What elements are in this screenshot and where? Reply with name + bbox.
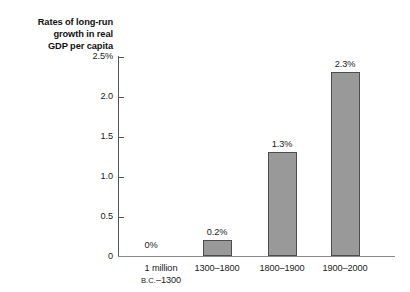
bar-3: [268, 152, 297, 256]
x-axis-label-3-line-1: 1800–1900: [259, 263, 304, 273]
y-tick-2.5: [119, 57, 124, 58]
x-axis-label-2-line-1: 1300–1800: [194, 263, 239, 273]
y-axis-label-0.5: 0.5: [23, 212, 113, 221]
bar-value-label-1: 0%: [116, 241, 186, 250]
y-tick-0.5: [119, 217, 124, 218]
bar-value-label-2: 0.2%: [182, 228, 252, 237]
y-axis-label-2.5: 2.5%: [23, 52, 113, 61]
bar-2: [203, 240, 232, 256]
chart-title-line-2: growth in real: [53, 29, 113, 39]
chart-title-line-1: Rates of long-run: [38, 17, 113, 27]
y-axis-label-0: 0: [23, 252, 113, 261]
x-axis-line: [118, 256, 395, 257]
bc-small-caps: B.C.: [141, 276, 156, 285]
y-tick-1.5: [119, 137, 124, 138]
y-tick-1.0: [119, 177, 124, 178]
x-axis-label-4-line-1: 1900–2000: [322, 263, 367, 273]
x-axis-label-1-line-2: B.C.–1300: [116, 275, 206, 287]
chart-title: Rates of long-run growth in real GDP per…: [8, 16, 113, 52]
x-axis-label-4: 1900–2000: [300, 263, 390, 275]
bar-value-label-3: 1.3%: [247, 140, 317, 149]
y-axis-label-1.5: 1.5: [23, 132, 113, 141]
chart-title-line-3: GDP per capita: [48, 41, 113, 51]
bar-value-label-4: 2.3%: [310, 60, 380, 69]
y-axis-label-2.0: 2.0: [23, 92, 113, 101]
y-axis-line: [118, 56, 119, 257]
bar-chart: Rates of long-run growth in real GDP per…: [0, 0, 410, 292]
y-axis-label-1.0: 1.0: [23, 172, 113, 181]
y-tick-2.0: [119, 97, 124, 98]
bar-4: [331, 72, 360, 256]
